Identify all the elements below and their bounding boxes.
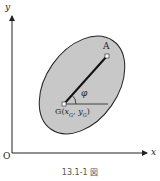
x-axis-label: x bbox=[151, 148, 156, 157]
point-G-label: G(xG, yG) bbox=[55, 108, 90, 118]
angle-phi-label: φ bbox=[81, 89, 87, 98]
point-A-label: A bbox=[103, 42, 110, 51]
figure-caption: 13.1-1 図 bbox=[0, 166, 160, 177]
y-axis-label: y bbox=[5, 3, 10, 12]
origin-label: O bbox=[3, 152, 10, 161]
point-G-marker bbox=[62, 102, 66, 106]
diagram-canvas bbox=[0, 0, 160, 181]
rigid-body-diagram: y x O A φ G(xG, yG) 13.1-1 図 bbox=[0, 0, 160, 181]
G-close-paren: ) bbox=[87, 107, 90, 116]
point-A-marker bbox=[105, 54, 109, 58]
